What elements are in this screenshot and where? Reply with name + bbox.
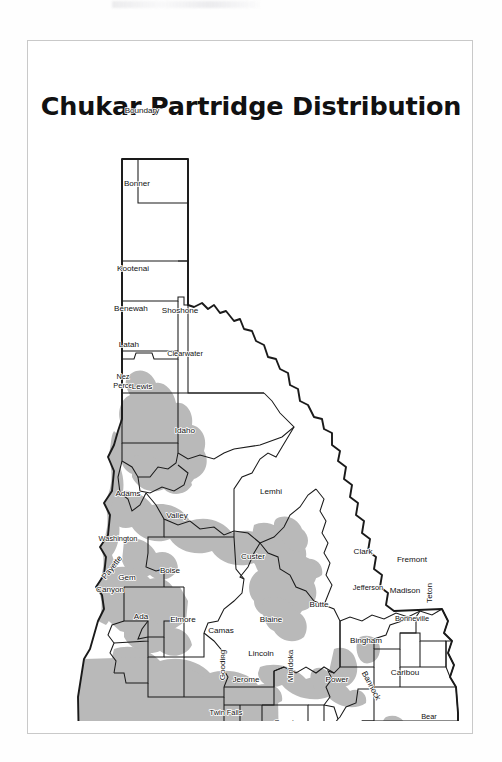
county-label-bingham: Bingham (350, 636, 382, 645)
county-label-valley: Valley (166, 511, 188, 520)
county-label-elmore: Elmore (170, 615, 196, 624)
county-label-bonneville: Bonneville (395, 614, 429, 623)
county-label-blaine: Blaine (260, 615, 283, 624)
county-label-fremont: Fremont (397, 555, 428, 564)
county-label-lincoln: Lincoln (248, 649, 274, 658)
county-label-clearwater: Clearwater (167, 349, 203, 358)
county-label-adams: Adams (115, 489, 140, 498)
county-label-caribou: Caribou (391, 668, 419, 677)
county-label-benewah: Benewah (114, 304, 148, 313)
county-label-bear-lake: BearLake (421, 712, 437, 721)
county-label-kootenai: Kootenai (117, 264, 149, 273)
county-label-canyon: Canyon (96, 585, 124, 594)
county-label-washington: Washington (99, 534, 138, 543)
county-label-minidoka: Minidoka (286, 649, 295, 682)
county-label-clark: Clark (354, 547, 374, 556)
shade-camas (224, 687, 274, 705)
county-label-ada: Ada (134, 612, 149, 621)
county-label-lemhi: Lemhi (260, 487, 282, 496)
county-label-shoshone: Shoshone (162, 306, 199, 315)
county-label-custer: Custer (241, 552, 265, 561)
county-label-boise: Boise (160, 566, 181, 575)
scan-artifact-top (112, 1, 260, 8)
county-label-lewis: Lewis (132, 382, 153, 391)
county-label-idaho: Idaho (175, 426, 196, 435)
county-label-latah: Latah (119, 340, 139, 349)
idaho-distribution-map[interactable]: BoundaryBonnerKootenaiBenewahShoshoneLat… (28, 101, 474, 721)
county-label-madison: Madison (390, 586, 421, 595)
county-label-jerome: Jerome (233, 675, 260, 684)
map-container: BoundaryBonnerKootenaiBenewahShoshoneLat… (28, 101, 474, 721)
county-label-cassia: Cassia (274, 718, 299, 721)
county-label-gooding: Gooding (218, 650, 227, 681)
county-label-oneida: Oneida (336, 720, 363, 721)
shade-gooding (240, 703, 262, 721)
county-label-gem: Gem (118, 573, 136, 582)
county-label-twin-falls: Twin Falls (210, 708, 243, 717)
page-frame: Chukar Partridge Distribution (27, 40, 473, 734)
county-label-bonner: Bonner (124, 179, 150, 188)
county-label-butte: Butte (310, 600, 329, 609)
county-label-jefferson: Jefferson (353, 583, 383, 592)
county-label-boundary: Boundary (125, 106, 161, 115)
county-label-camas: Camas (208, 626, 234, 635)
shade-bannock (382, 716, 406, 721)
county-label-power: Power (326, 675, 349, 684)
county-label-teton: Teton (425, 583, 434, 603)
